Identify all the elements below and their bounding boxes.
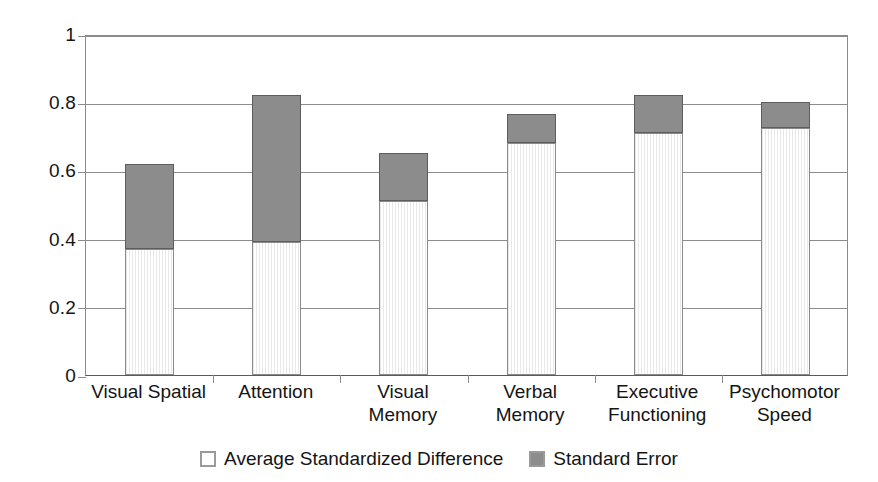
bar-segment [761,102,810,128]
gridline-y-0.8 [86,104,847,105]
y-tick-mark-1 [78,36,86,37]
legend-item[interactable]: Average Standardized Difference [200,448,503,470]
bar-segment [252,95,301,242]
x-category-label-line: Memory [467,403,594,426]
y-tick-mark-0.6 [78,172,86,173]
x-category-label-line: Executive [594,380,721,403]
plot-area [85,35,848,376]
x-category-label: Visual Spatial [85,380,212,403]
x-category-label: VisualMemory [339,380,466,426]
y-tick-mark-0.4 [78,240,86,241]
bar-segment [379,201,428,375]
white-outline-swatch [200,451,216,467]
legend-item[interactable]: Standard Error [529,448,678,470]
y-tick-mark-0.2 [78,308,86,309]
x-category-label-line: Speed [721,403,848,426]
x-category-label-line: Verbal [467,380,594,403]
x-axis-category-labels: Visual SpatialAttentionVisualMemoryVerba… [85,380,848,440]
y-tick-mark-0 [78,377,86,378]
bar-group [507,34,556,375]
bar-segment [634,133,683,375]
bar-segment [761,128,810,375]
x-category-label: PsychomotorSpeed [721,380,848,426]
bar-group [252,34,301,375]
bar-group [761,34,810,375]
bar-group [379,34,428,375]
y-tick-label-0.8: 0.8 [14,93,76,112]
x-category-label-line: Psychomotor [721,380,848,403]
y-tick-mark-0.8 [78,104,86,105]
y-axis-tick-labels: 00.20.40.60.81 [14,0,76,482]
x-category-label-line: Attention [212,380,339,403]
gridline-y-1 [86,36,847,37]
stacked-bar-chart: 00.20.40.60.81 Visual SpatialAttentionVi… [0,0,878,482]
bar-segment [507,114,556,143]
x-category-label: Attention [212,380,339,403]
bar-segment [252,242,301,375]
legend-item-label: Standard Error [553,448,678,470]
bar-segment [125,164,174,249]
gridline-y-0.2 [86,308,847,309]
chart-legend: Average Standardized DifferenceStandard … [0,448,878,470]
gray-swatch [529,451,545,467]
y-tick-label-0.4: 0.4 [14,230,76,249]
x-category-label-line: Visual Spatial [85,380,212,403]
bar-segment [125,249,174,375]
x-category-label-line: Memory [339,403,466,426]
x-category-label-line: Functioning [594,403,721,426]
y-tick-label-1: 1 [14,25,76,44]
bar-group [634,34,683,375]
x-category-label-line: Visual [339,380,466,403]
y-tick-label-0: 0 [14,366,76,385]
legend-item-label: Average Standardized Difference [224,448,503,470]
bar-segment [379,153,428,201]
bar-segment [634,95,683,133]
bar-group [125,34,174,375]
x-category-label: ExecutiveFunctioning [594,380,721,426]
x-category-label: VerbalMemory [467,380,594,426]
bar-segment [507,143,556,375]
y-tick-label-0.2: 0.2 [14,298,76,317]
gridline-y-0.4 [86,240,847,241]
y-tick-label-0.6: 0.6 [14,161,76,180]
gridline-y-0.6 [86,172,847,173]
